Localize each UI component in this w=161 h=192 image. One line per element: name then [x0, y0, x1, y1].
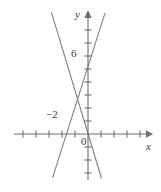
graph-figure: y x 6 −2 0	[0, 0, 161, 192]
y-axis-arrowhead	[84, 10, 91, 18]
coordinate-plot-svg	[0, 0, 161, 192]
origin-label: 0	[81, 136, 87, 147]
y-tick-label-6: 6	[71, 48, 77, 59]
y-axis	[84, 10, 91, 180]
descending-line	[52, 13, 102, 178]
x-axis-arrowhead	[146, 130, 153, 137]
ascending-line	[53, 13, 105, 177]
plotted-lines	[52, 13, 105, 178]
x-tick-label-negative-2: −2	[46, 109, 58, 120]
x-axis-label: x	[146, 141, 151, 152]
y-axis-label: y	[75, 9, 80, 20]
